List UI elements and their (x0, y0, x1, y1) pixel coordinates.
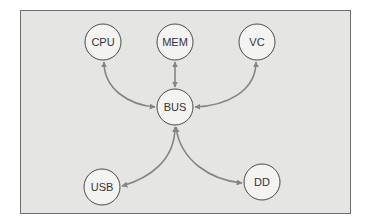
edge-vc-bus (195, 62, 256, 107)
edge-cpu-bus (104, 62, 155, 107)
diagram-canvas: CPU MEM VC BUS USB DD (0, 0, 371, 223)
bus-topology-diagram: CPU MEM VC BUS USB DD (0, 0, 371, 223)
node-label-dd: DD (254, 176, 270, 188)
node-dd: DD (244, 164, 280, 200)
edge-bus-usb (122, 127, 175, 186)
node-mem: MEM (157, 24, 193, 60)
node-vc: VC (239, 24, 275, 60)
node-label-bus: BUS (164, 101, 187, 113)
node-bus: BUS (157, 89, 193, 125)
node-usb: USB (84, 169, 120, 205)
node-label-usb: USB (91, 181, 114, 193)
node-cpu: CPU (85, 24, 121, 60)
node-label-vc: VC (249, 36, 264, 48)
node-label-mem: MEM (162, 36, 188, 48)
node-label-cpu: CPU (91, 36, 114, 48)
edge-bus-dd (176, 127, 242, 183)
